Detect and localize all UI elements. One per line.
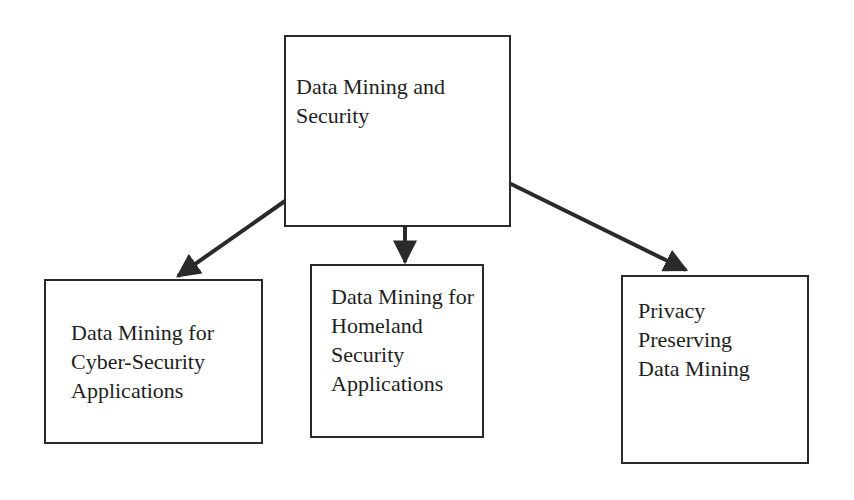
arrow-root-to-privacy	[509, 183, 686, 270]
node-label-privacy: Privacy Preserving Data Mining	[638, 296, 750, 383]
diagram-canvas: Data Mining and Security Data Mining for…	[0, 0, 854, 500]
arrow-root-to-cyber	[178, 201, 285, 276]
node-label-cyber: Data Mining for Cyber-Security Applicati…	[71, 318, 214, 405]
node-label-root: Data Mining and Security	[296, 72, 445, 130]
node-data-mining-and-security	[284, 35, 511, 227]
node-label-homeland: Data Mining for Homeland Security Applic…	[331, 282, 474, 398]
